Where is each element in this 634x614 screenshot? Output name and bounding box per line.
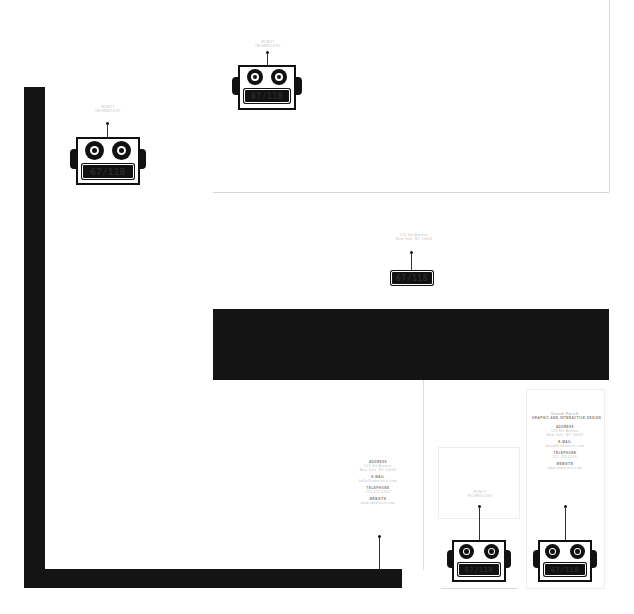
robot-display: 67/11B <box>543 562 587 577</box>
large-card-logo-text: ROBOT TECHNOLOGY <box>80 105 136 113</box>
black-vertical-bar <box>24 87 45 588</box>
robot-eye-left <box>459 544 474 559</box>
robot-eye-left <box>247 69 263 85</box>
robot-eye-left <box>85 141 104 160</box>
robot-eye-right <box>570 544 585 559</box>
black-horizontal-bar <box>24 569 402 588</box>
robot-display-only: 67/11B <box>390 270 434 286</box>
antenna <box>479 507 480 541</box>
robot-display: 67/11B <box>390 270 434 286</box>
letter-contact-info: ADDRESS 123 4th Avenue New York, NY 1000… <box>348 460 408 505</box>
letter-panel-edge <box>423 380 424 570</box>
business-card-back-text: David Porch GRAPHIC AND INTERACTIVE DESI… <box>532 412 598 470</box>
robot-logo-card-front: 67/11B <box>447 540 511 582</box>
antenna <box>107 124 108 138</box>
robot-logo-card-back: 67/11B <box>533 540 597 582</box>
business-card-front-text: ROBOT TECHNOLOGY <box>458 490 502 498</box>
antenna <box>565 507 566 541</box>
sheet-right-edge <box>609 0 610 192</box>
robot-logo-large: 67/11B <box>70 137 146 185</box>
robot-eye-right <box>271 69 287 85</box>
robot-eye-right <box>112 141 131 160</box>
letterhead-address-text: 123 4th Avenue New York, NY 10003 <box>380 233 448 241</box>
black-band <box>213 309 609 380</box>
robot-display: 67/11B <box>81 163 135 180</box>
robot-eye-left <box>545 544 560 559</box>
robot-display: 67/11B <box>243 88 291 104</box>
antenna <box>379 537 380 569</box>
robot-eye-right <box>484 544 499 559</box>
robot-display: 67/11B <box>457 562 501 577</box>
envelope-logo-text: ROBOT TECHNOLOGY <box>240 40 296 48</box>
antenna <box>411 253 412 271</box>
robot-logo-envelope: 67/11B <box>232 65 302 110</box>
